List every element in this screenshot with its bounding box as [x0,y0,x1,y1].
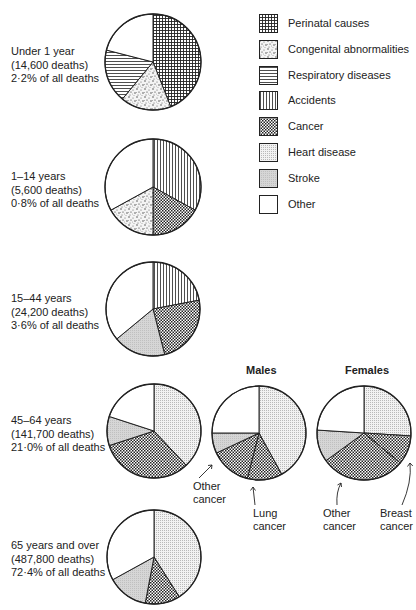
pie-chart-2 [106,262,200,356]
females-other-cancer-label: Other cancer [323,507,356,533]
pie-chart-3 [107,384,201,478]
females-breast-cancer-label: Breast cancer [380,507,413,533]
pie-chart-6 [107,510,201,604]
cancer-swatch-icon [259,117,278,136]
group-label-45-64: 45–64 years (141,700 deaths) 21·0% of al… [11,414,105,455]
legend-label: Perinatal causes [288,17,369,29]
pie-chart-5 [317,386,411,480]
males-title: Males [246,364,277,376]
legend-label: Respiratory diseases [288,69,391,81]
group-label-15-44: 15–44 years (24,200 deaths) 3·6% of all … [11,292,99,333]
slice-heart-disease [364,386,411,436]
legend-label: Cancer [288,120,323,132]
females-other-cancer-arrow [337,483,341,505]
respiratory-swatch-icon [259,66,278,85]
heart-swatch-icon [259,143,278,162]
males-other-cancer-arrow [199,465,212,478]
slice-other [212,386,259,433]
slice-other [317,386,364,433]
other-swatch-icon [259,195,278,214]
group-label-65-plus: 65 years and over (487,800 deaths) 72·4%… [11,539,105,580]
females-breast-cancer-arrow [402,463,410,505]
pie-chart-1 [105,139,201,235]
pie-chart-4 [212,386,306,480]
group-label-under-1: Under 1 year (14,600 deaths) 2·2% of all… [11,45,99,86]
pie-chart-0 [105,14,201,110]
males-other-cancer-label: Other cancer [193,480,226,506]
congenital-swatch-icon [259,40,278,59]
perinatal-swatch-icon [259,14,278,33]
legend-label: Other [288,198,316,210]
accidents-swatch-icon [259,91,278,110]
legend-label: Stroke [288,172,320,184]
legend-label: Heart disease [288,146,356,158]
stroke-swatch-icon [259,169,278,188]
legend-label: Accidents [288,94,336,106]
group-label-1-14: 1–14 years (5,600 deaths) 0·8% of all de… [11,170,99,211]
males-lung-cancer-label: Lung cancer [253,507,286,533]
legend-label: Congenital abnormalities [288,43,409,55]
females-title: Females [345,364,389,376]
